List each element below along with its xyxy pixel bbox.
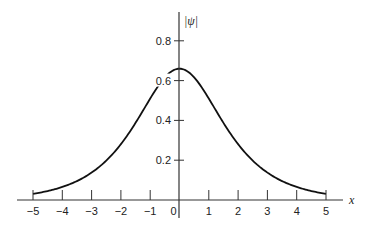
x-tick-label: −2: [115, 205, 128, 217]
x-tick-label: −1: [144, 205, 157, 217]
x-axis-ticks: −5−4−3−2−1012345: [27, 190, 329, 217]
x-tick-label: 3: [264, 205, 270, 217]
x-tick-label: 0: [170, 205, 176, 217]
y-axis-label: |ψ|: [184, 14, 198, 28]
x-tick-label: −4: [56, 205, 69, 217]
y-tick-label: 0.6: [156, 75, 171, 87]
x-tick-label: −3: [85, 205, 98, 217]
x-tick-label: 4: [294, 205, 300, 217]
x-tick-label: 5: [323, 205, 329, 217]
x-axis-label: x: [348, 193, 355, 207]
y-tick-label: 0.8: [156, 35, 171, 47]
y-tick-label: 0.4: [156, 114, 171, 126]
y-tick-label: 0.2: [156, 154, 171, 166]
x-tick-label: −5: [27, 205, 40, 217]
x-tick-label: 1: [206, 205, 212, 217]
x-tick-label: 2: [235, 205, 241, 217]
chart: −5−4−3−2−1012345 0.20.40.60.8 x |ψ|: [0, 0, 368, 228]
